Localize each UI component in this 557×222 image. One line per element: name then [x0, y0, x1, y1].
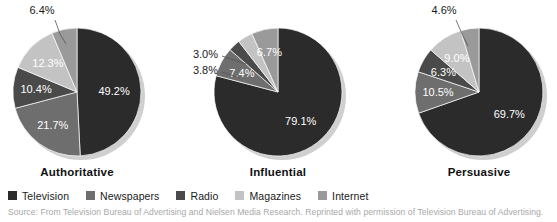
slice-label-radio: 10.4%: [20, 83, 51, 95]
slice-label-magazines: 3.8%: [193, 64, 218, 76]
slice-label-television: 79.1%: [285, 115, 316, 127]
slice-label-internet: 6.4%: [29, 4, 54, 16]
legend: TelevisionNewspapersRadioMagazinesIntern…: [8, 188, 408, 203]
legend-swatch-icon: [86, 191, 95, 200]
legend-item-label: Radio: [190, 190, 218, 202]
chart-title-2: Persuasive: [409, 166, 549, 178]
slice-label-magazines: 9.0%: [444, 52, 469, 64]
legend-item-internet: Internet: [318, 190, 368, 202]
pie-charts-svg: 49.2%21.7%10.4%12.3%6.4%79.1%7.4%3.0%3.8…: [0, 0, 557, 185]
slice-label-newspapers: 21.7%: [37, 119, 68, 131]
pie-charts-row: 49.2%21.7%10.4%12.3%6.4%79.1%7.4%3.0%3.8…: [0, 0, 557, 185]
pie-chart-1: 79.1%7.4%3.0%3.8%6.7%: [193, 28, 346, 160]
pie-chart-2: 69.7%10.5%6.3%9.0%4.6%: [415, 4, 547, 160]
legend-item-magazines: Magazines: [235, 190, 301, 202]
legend-swatch-icon: [318, 191, 327, 200]
legend-item-newspapers: Newspapers: [86, 190, 159, 202]
legend-item-television: Television: [8, 190, 69, 202]
legend-swatch-icon: [235, 191, 244, 200]
chart-title-0: Authoritative: [7, 166, 147, 178]
chart-title-1: Influential: [208, 166, 348, 178]
legend-item-label: Newspapers: [100, 190, 159, 202]
slice-label-radio: 6.3%: [431, 66, 456, 78]
legend-item-label: Television: [22, 190, 69, 202]
pie-chart-0: 49.2%21.7%10.4%12.3%6.4%: [13, 4, 145, 160]
slice-label-internet: 4.6%: [431, 4, 456, 16]
slice-label-television: 69.7%: [494, 108, 525, 120]
pie-chart-figure: 49.2%21.7%10.4%12.3%6.4%79.1%7.4%3.0%3.8…: [0, 0, 557, 222]
slice-label-newspapers: 7.4%: [229, 67, 254, 79]
legend-swatch-icon: [176, 191, 185, 200]
legend-item-label: Magazines: [249, 190, 301, 202]
legend-swatch-icon: [8, 191, 17, 200]
legend-item-label: Internet: [332, 190, 368, 202]
slice-label-magazines: 12.3%: [32, 57, 63, 69]
slice-label-television: 49.2%: [98, 85, 129, 97]
slice-label-newspapers: 10.5%: [422, 86, 453, 98]
slice-label-internet: 6.7%: [257, 46, 282, 58]
slice-label-radio: 3.0%: [193, 48, 218, 60]
legend-item-radio: Radio: [176, 190, 218, 202]
source-caption: Source: From Television Bureau of Advert…: [8, 207, 543, 217]
